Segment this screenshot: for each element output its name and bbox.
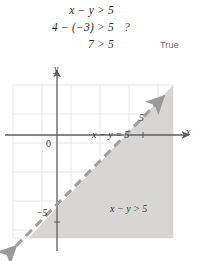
graph-canvas [0, 62, 205, 261]
equation-line-1: x − y > 5 [0, 4, 114, 16]
inequality-graph: y x 0 5 −5 x − y = 5 x − y > 5 [0, 62, 205, 261]
boundary-line-label: x − y = 5 [92, 129, 129, 140]
equation-line-2: 4 − (−3) > 5 [0, 21, 114, 33]
region-label: x − y > 5 [110, 203, 147, 214]
worked-example-block: x − y > 5 4 − (−3) > 5 7 > 5 ? True [0, 0, 205, 62]
origin-label: 0 [46, 138, 51, 149]
figure-root: x − y > 5 4 − (−3) > 5 7 > 5 ? True [0, 0, 205, 261]
y-tick-label-neg5: −5 [36, 208, 47, 218]
equation-line-3: 7 > 5 [0, 38, 114, 50]
x-tick-label-5: 5 [139, 113, 144, 123]
x-axis-label: x [186, 126, 190, 137]
question-mark: ? [124, 21, 130, 33]
verdict-label: True [160, 40, 179, 50]
y-axis-label: y [54, 63, 58, 74]
